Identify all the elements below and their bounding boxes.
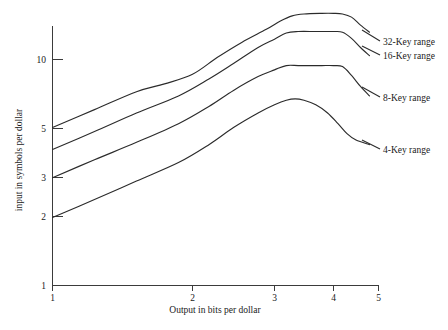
series-label-32-key: 32-Key range [383,37,435,47]
x-tick-label-3: 3 [272,293,277,303]
series-label-4-key: 4-Key range [383,145,430,155]
x-axis-title: Output in bits per dollar [169,305,261,315]
y-tick-label-2: 2 [41,212,46,222]
y-tick-label-10: 10 [37,55,47,65]
y-axis-title: input in symbols per dollar [14,108,24,211]
x-tick-label-4: 4 [331,293,336,303]
leader-line-16-key [362,46,380,55]
y-tick-label-1: 1 [41,281,46,291]
series-line-32-key [53,13,370,127]
series-line-16-key [53,31,370,149]
y-tick-label-5: 5 [41,124,46,134]
series-line-8-key [53,65,370,177]
x-tick-label-5: 5 [376,293,381,303]
leader-line-8-key [362,87,380,97]
chart-figure: 10 5 3 2 1 1 2 3 4 5 Output in bits per … [0,0,448,330]
x-tick-label-1: 1 [50,293,55,303]
chart-plot-area: 10 5 3 2 1 1 2 3 4 5 Output in bits per … [0,0,448,330]
leader-line-32-key [362,30,380,41]
series-line-4-key [53,99,370,218]
series-label-8-key: 8-Key range [383,93,430,103]
series-label-16-key: 16-Key range [383,51,435,61]
y-tick-label-3: 3 [41,173,46,183]
leader-line-4-key [362,140,380,149]
x-tick-label-2: 2 [190,293,195,303]
